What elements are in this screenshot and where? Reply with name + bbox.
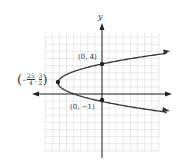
vertex-x-denominator: 4: [29, 80, 33, 86]
x-axis-arrow-left: [32, 92, 39, 97]
label-point-0-4: (0, 4): [78, 53, 97, 61]
curve-arrow-bottom: [162, 107, 170, 112]
y-axis-arrow-up: [100, 23, 105, 30]
curve-arrow-top: [163, 50, 170, 55]
y-axis-label: y: [98, 12, 103, 21]
point-0-neg1: [100, 98, 104, 102]
point-0-4: [100, 62, 104, 66]
label-point-0-neg1: (0, −1): [70, 103, 95, 111]
label-vertex: ( − 25 4 , 3 2 ): [17, 73, 47, 86]
x-axis-arrow-right: [165, 92, 172, 97]
point-vertex: [56, 80, 60, 84]
